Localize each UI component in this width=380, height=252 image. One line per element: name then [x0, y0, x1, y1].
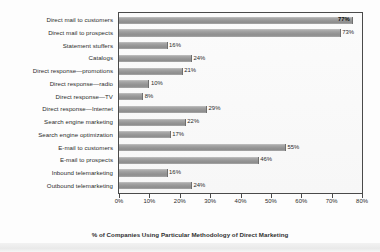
category-label: Direct response—promotions: [2, 65, 116, 78]
bar[interactable]: [119, 144, 286, 151]
bar-value-label: 73%: [342, 30, 354, 36]
bar-row: 29%: [119, 103, 362, 116]
bar[interactable]: [119, 55, 192, 62]
bar-value-label: 8%: [145, 94, 154, 100]
bar-row: 8%: [119, 90, 362, 103]
bar-value-label: 29%: [209, 106, 221, 112]
category-label: Direct response—radio: [2, 78, 116, 91]
bar-value-label: 22%: [187, 119, 199, 125]
bar[interactable]: [119, 182, 192, 189]
x-axis-tick-label: 0%: [115, 199, 124, 205]
category-label: Direct response—Internet: [2, 103, 116, 116]
bar-value-label: 17%: [172, 132, 184, 138]
x-axis-tick-label: 10%: [143, 199, 155, 205]
bar[interactable]: [119, 106, 207, 113]
x-axis-tick-label: 20%: [174, 199, 186, 205]
bar[interactable]: [119, 157, 259, 164]
category-label: Direct mail to prospects: [2, 27, 116, 40]
bar[interactable]: [119, 68, 183, 75]
x-axis-tick-label: 80%: [356, 199, 368, 205]
category-label: Direct mail to customers: [2, 14, 116, 27]
x-axis-tick-labels: 0%10%20%30%40%50%60%70%80%: [118, 199, 363, 209]
bar-row: 21%: [119, 65, 362, 78]
bar-value-label: 24%: [193, 56, 205, 62]
bar-row: 22%: [119, 116, 362, 129]
bar-row: 73%: [119, 27, 362, 40]
bar[interactable]: [119, 42, 168, 49]
category-label: Catalogs: [2, 52, 116, 65]
x-axis-tick-label: 30%: [204, 199, 216, 205]
x-axis-tick-label: 70%: [326, 199, 338, 205]
bar-row: 17%: [119, 128, 362, 141]
bar-row: 46%: [119, 154, 362, 167]
category-axis-labels: Direct mail to customersDirect mail to p…: [2, 14, 116, 192]
bar-chart: Direct mail to customersDirect mail to p…: [0, 0, 380, 252]
x-axis-tick-label: 60%: [295, 199, 307, 205]
bar-row: 77%: [119, 14, 362, 27]
bar-value-label: 55%: [288, 145, 300, 151]
bar[interactable]: [119, 119, 186, 126]
category-label: E-mail to customers: [2, 141, 116, 154]
bar[interactable]: [119, 169, 168, 176]
bars-container: 77%73%16%24%21%10%8%29%22%17%55%46%16%24…: [119, 14, 362, 192]
page-bottom-band: [0, 243, 380, 252]
bar-value-label: 16%: [169, 170, 181, 176]
category-label: E-mail to prospects: [2, 154, 116, 167]
bar-row: 24%: [119, 52, 362, 65]
bar[interactable]: [119, 131, 171, 138]
bar-value-label: 10%: [151, 81, 163, 87]
x-axis-tick-label: 40%: [235, 199, 247, 205]
bar-value-label: 77%: [338, 17, 350, 23]
bar-row: 24%: [119, 179, 362, 192]
bar-value-label: 46%: [260, 157, 272, 163]
bar[interactable]: [119, 17, 353, 24]
bar-value-label: 16%: [169, 43, 181, 49]
category-label: Search engine marketing: [2, 116, 116, 129]
category-label: Direct response—TV: [2, 90, 116, 103]
bar[interactable]: [119, 80, 149, 87]
bar-row: 55%: [119, 141, 362, 154]
x-axis-tick-label: 50%: [265, 199, 277, 205]
bar-value-label: 24%: [193, 183, 205, 189]
bar-row: 16%: [119, 39, 362, 52]
category-label: Outbound telemarketing: [2, 179, 116, 192]
bar-row: 10%: [119, 78, 362, 91]
bar-row: 16%: [119, 167, 362, 180]
category-label: Statement stuffers: [2, 39, 116, 52]
bar[interactable]: [119, 93, 143, 100]
bar[interactable]: [119, 29, 341, 36]
category-label: Inbound telemarketing: [2, 167, 116, 180]
x-axis-title: % of Companies Using Particular Methodol…: [0, 231, 380, 238]
bar-value-label: 21%: [184, 68, 196, 74]
category-label: Search engine optimization: [2, 128, 116, 141]
